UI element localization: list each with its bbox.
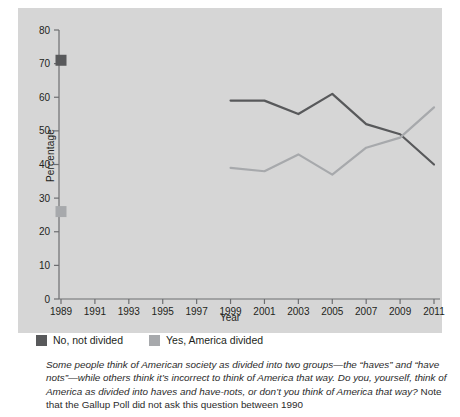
y-tick-label: 0 [44, 294, 50, 305]
legend-label-yes-america-divided: Yes, America divided [166, 334, 263, 346]
figure-caption: Some people think of American society as… [46, 358, 450, 412]
series-marker-1 [56, 206, 67, 217]
series-marker-0 [56, 55, 67, 66]
y-tick-label: 20 [39, 226, 51, 237]
legend-swatch-yes-america-divided [149, 335, 160, 346]
x-axis-title: Year [0, 312, 460, 323]
legend-swatch-no-not-divided [36, 335, 47, 346]
legend-item-no-not-divided: No, not divided [36, 334, 123, 346]
caption-question: Some people think of American society as… [46, 359, 446, 397]
chart-legend: No, not divided Yes, America divided [18, 334, 442, 346]
legend-label-no-not-divided: No, not divided [53, 334, 123, 346]
series-line-0 [231, 94, 434, 165]
axis-layer: 0102030405060708019891991199319951997199… [39, 25, 445, 317]
y-tick-label: 10 [39, 260, 51, 271]
figure-root: 0102030405060708019891991199319951997199… [0, 0, 460, 417]
chart-svg: 0102030405060708019891991199319951997199… [0, 0, 460, 417]
series-layer [56, 55, 435, 217]
chart-area: 0102030405060708019891991199319951997199… [0, 0, 460, 417]
y-axis-title: Percentage [45, 96, 56, 216]
series-line-1 [231, 107, 434, 174]
y-tick-label: 70 [39, 58, 51, 69]
y-tick-label: 80 [39, 25, 51, 36]
legend-item-yes-america-divided: Yes, America divided [149, 334, 263, 346]
